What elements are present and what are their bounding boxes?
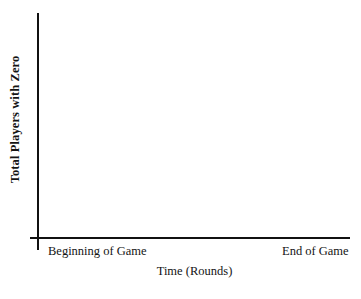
x-axis-line (30, 237, 350, 239)
x-axis-title: Time (Rounds) (39, 264, 350, 279)
chart-figure: Total Players with Zero Beginning of Gam… (0, 0, 361, 299)
y-axis-label: Total Players with Zero (0, 0, 32, 238)
plot-area (39, 13, 350, 237)
y-axis-label-text: Total Players with Zero (9, 55, 24, 183)
x-axis-tick-label-start: Beginning of Game (48, 244, 147, 259)
x-axis-tick-label-end: End of Game (282, 244, 349, 259)
